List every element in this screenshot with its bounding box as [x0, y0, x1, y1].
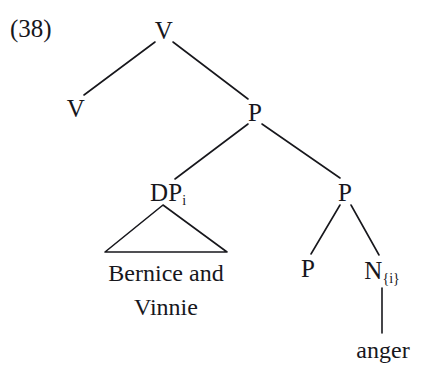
example-number-label: (38): [10, 16, 52, 41]
tree-node-n-subscript: {i}: [382, 271, 399, 286]
terminal-dp-phrase-line2: Vinnie: [108, 290, 223, 324]
tree-edge-root-v-to-upper-p: [173, 42, 248, 99]
terminal-dp-phrase-line1: Bernice and: [108, 256, 223, 290]
tree-node-dp[interactable]: DPi: [150, 180, 186, 205]
tree-node-n-label: N: [364, 257, 382, 284]
tree-node-dp-label: DP: [150, 179, 182, 206]
terminal-dp-phrase: Bernice and Vinnie: [108, 256, 223, 324]
tree-edge-upper-p-to-dp: [175, 124, 248, 179]
tree-node-lower-p[interactable]: P: [338, 180, 352, 205]
tree-node-inner-p[interactable]: P: [301, 256, 315, 281]
tree-edge-lower-p-to-n: [351, 205, 379, 255]
tree-node-n[interactable]: N{i}: [364, 258, 400, 283]
tree-node-left-v[interactable]: V: [67, 96, 85, 121]
dp-expansion-triangle: [105, 205, 227, 252]
figure-canvas: (38) V V P DPi P P N{i} Bernice and Vinn…: [0, 0, 431, 381]
tree-edge-upper-p-to-lower-p: [262, 124, 340, 178]
tree-edge-root-v-to-left-v: [84, 42, 155, 95]
tree-node-upper-p[interactable]: P: [248, 100, 262, 125]
terminal-anger: anger: [356, 338, 409, 362]
tree-node-dp-subscript: i: [182, 193, 186, 208]
tree-edge-lower-p-to-inner-p: [311, 205, 340, 254]
tree-node-root-v[interactable]: V: [155, 18, 173, 43]
